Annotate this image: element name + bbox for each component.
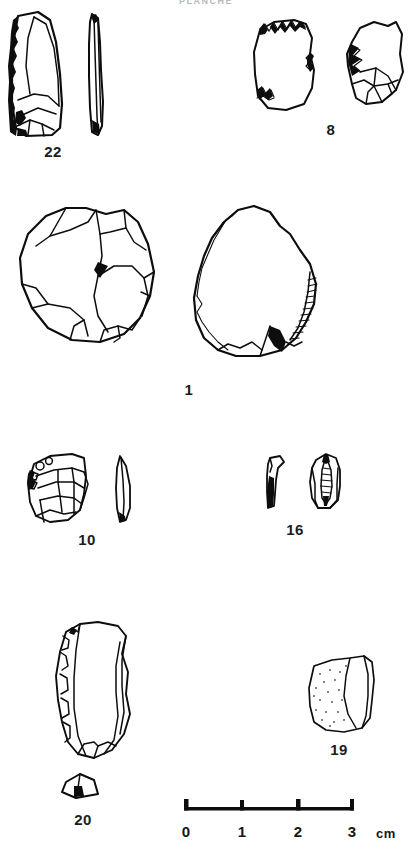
scale-tick-0: 0 bbox=[178, 823, 194, 840]
scale-tick-labels: 0 1 2 3 cm bbox=[180, 821, 360, 841]
figure-22: 22 bbox=[4, 8, 114, 140]
scale-tick-2: 2 bbox=[290, 823, 306, 840]
figure-1-drawing bbox=[14, 200, 364, 372]
scale-unit-label: cm bbox=[376, 826, 396, 841]
figure-label-16: 16 bbox=[278, 522, 312, 538]
figure-20-drawing bbox=[36, 616, 156, 766]
scale-tick-3: 3 bbox=[344, 823, 360, 840]
figure-label-1: 1 bbox=[174, 382, 204, 398]
figure-8: 8 bbox=[248, 14, 408, 119]
figure-16: 16 bbox=[258, 450, 358, 522]
figure-label-20: 20 bbox=[66, 812, 100, 828]
figure-19: 19 bbox=[302, 650, 388, 742]
artefact-plate: PLANCHE 22 bbox=[0, 0, 412, 849]
figure-19-drawing bbox=[302, 650, 388, 742]
scale-bar-drawing bbox=[180, 795, 360, 817]
figure-10: 10 bbox=[20, 450, 140, 528]
figure-8-drawing bbox=[248, 14, 408, 119]
figure-1: 1 bbox=[14, 200, 364, 372]
scale-bar: 0 1 2 3 cm bbox=[180, 795, 360, 841]
figure-label-19: 19 bbox=[322, 742, 356, 758]
figure-22-drawing bbox=[4, 8, 114, 140]
figure-label-10: 10 bbox=[70, 532, 104, 548]
scale-tick-1: 1 bbox=[234, 823, 250, 840]
figure-20: 20 bbox=[36, 616, 156, 766]
figure-label-22: 22 bbox=[38, 144, 68, 160]
figure-label-8: 8 bbox=[316, 122, 346, 138]
plate-title: PLANCHE bbox=[0, 0, 412, 4]
figure-16-drawing bbox=[258, 450, 358, 522]
figure-10-drawing bbox=[20, 450, 140, 528]
